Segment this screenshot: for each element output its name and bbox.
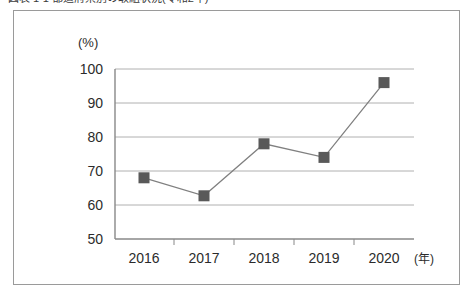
data-point-2018[interactable] [259,138,270,149]
line-chart: (%) 100 90 80 70 60 50 [14,11,461,286]
figure-box: (%) 100 90 80 70 60 50 [13,10,460,285]
y-tick-label-100: 100 [80,61,104,77]
y-tick-label-90: 90 [87,95,103,111]
x-tick-label-2018: 2018 [248,250,279,266]
screenshot-page: 図表 1-1 都道府県別の取組状況(令和2年) (%) 100 90 80 70… [0,0,474,298]
x-tick-label-2017: 2017 [188,250,219,266]
chart-svg: (%) 100 90 80 70 60 50 [14,11,461,286]
x-tick-label-2020: 2020 [368,250,399,266]
data-point-2017[interactable] [199,190,210,201]
data-point-2019[interactable] [319,152,330,163]
x-tick-label-2016: 2016 [128,250,159,266]
figure-caption-text: 図表 1-1 都道府県別の取組状況(令和2年) [8,0,308,4]
data-point-2020[interactable] [379,77,390,88]
y-axis-unit-label: (%) [78,35,98,50]
figure-caption: 図表 1-1 都道府県別の取組状況(令和2年) [8,0,308,5]
y-tick-label-80: 80 [87,129,103,145]
y-tick-label-70: 70 [87,163,103,179]
y-tick-label-60: 60 [87,197,103,213]
data-point-2016[interactable] [139,172,150,183]
x-axis-unit-label: (年) [414,252,434,266]
y-tick-label-50: 50 [87,231,103,247]
x-tick-label-2019: 2019 [308,250,339,266]
